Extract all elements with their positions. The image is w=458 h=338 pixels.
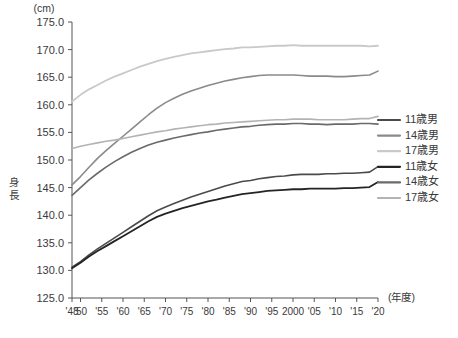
legend-label-0[interactable]: 11歳男 xyxy=(405,113,438,125)
x-tick-label: '05 xyxy=(308,306,321,317)
x-tick-label: 2000 xyxy=(282,306,305,317)
height-trend-chart: 125.0130.0135.0140.0145.0150.0155.0160.0… xyxy=(0,0,458,338)
series-line-5 xyxy=(72,116,378,148)
y-axis-title-char: 長 xyxy=(9,189,20,201)
y-tick-label: 165.0 xyxy=(36,71,64,83)
x-tick-label: '20 xyxy=(371,306,384,317)
x-tick-label: '70 xyxy=(159,306,172,317)
x-tick-label: '50 xyxy=(74,306,87,317)
y-unit-label: (cm) xyxy=(34,2,55,14)
series-line-1 xyxy=(72,71,378,185)
series-line-2 xyxy=(72,45,378,101)
y-tick-label: 155.0 xyxy=(36,126,64,138)
y-tick-label: 145.0 xyxy=(36,182,64,194)
x-tick-label: '65 xyxy=(138,306,151,317)
x-tick-label: '75 xyxy=(180,306,193,317)
series-line-0 xyxy=(72,167,378,267)
series-layer xyxy=(72,45,378,268)
series-line-4 xyxy=(72,124,378,196)
y-axis-title-char: 身 xyxy=(9,176,19,188)
legend-label-4[interactable]: 14歳女 xyxy=(405,174,439,187)
x-tick-label: '10 xyxy=(329,306,342,317)
x-tick-label: '55 xyxy=(95,306,108,317)
legend-label-5[interactable]: 17歳女 xyxy=(405,190,439,203)
x-tick-label: '15 xyxy=(350,306,363,317)
x-axis-title: (年度) xyxy=(388,291,415,303)
y-tick-label: 175.0 xyxy=(36,16,64,28)
legend-label-2[interactable]: 17歳男 xyxy=(405,144,439,156)
y-tick-label: 135.0 xyxy=(36,237,64,249)
y-tick-label: 125.0 xyxy=(36,292,64,304)
series-line-3 xyxy=(72,182,378,268)
x-tick-label: '95 xyxy=(265,306,278,317)
chart-canvas: 125.0130.0135.0140.0145.0150.0155.0160.0… xyxy=(0,0,458,338)
legend-label-3[interactable]: 11歳女 xyxy=(405,159,438,172)
x-tick-label: '90 xyxy=(244,306,257,317)
y-tick-label: 150.0 xyxy=(36,154,64,166)
legend-label-1[interactable]: 14歳男 xyxy=(405,129,439,141)
x-tick-label: '60 xyxy=(116,306,129,317)
y-tick-label: 140.0 xyxy=(36,209,64,221)
x-tick-label: '80 xyxy=(201,306,214,317)
y-tick-label: 170.0 xyxy=(36,44,64,56)
y-tick-label: 130.0 xyxy=(36,264,64,276)
x-tick-label: '85 xyxy=(223,306,236,317)
y-tick-label: 160.0 xyxy=(36,99,64,111)
legend-layer: 11歳男14歳男17歳男11歳女14歳女17歳女 xyxy=(378,113,439,203)
